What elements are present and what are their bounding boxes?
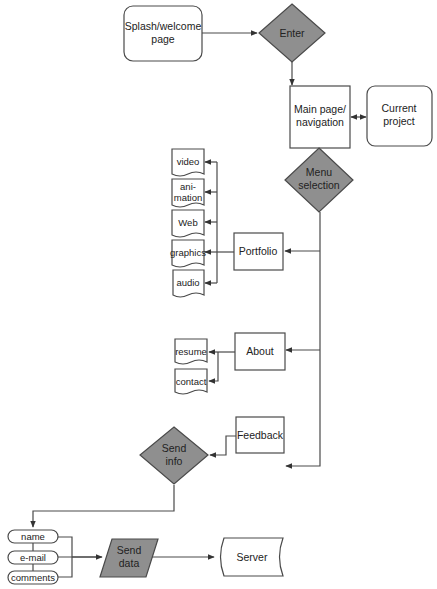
node-resume: resume [175, 339, 207, 364]
node-label: contact [176, 376, 207, 387]
node-label: info [166, 455, 183, 467]
node-label: Server [237, 551, 268, 563]
node-label: Send [117, 544, 142, 556]
node-video: video [172, 149, 204, 176]
node-splash-welcome: Splash/welcome page [124, 6, 202, 61]
node-name: name [8, 530, 58, 543]
node-label: Web [178, 217, 197, 228]
edge-menu-trunk [286, 212, 320, 466]
node-label: Portfolio [239, 245, 278, 257]
node-comments: comments [8, 571, 58, 584]
node-label: graphics [170, 247, 206, 258]
node-label: About [246, 345, 274, 357]
edge-sendinfo-name [33, 485, 174, 527]
node-label: page [151, 33, 175, 45]
node-label: e-mail [20, 552, 46, 563]
node-label: Send [162, 442, 187, 454]
edge-about-bus [209, 352, 218, 381]
node-animation: ani- mation [172, 179, 204, 207]
node-menu-selection: Menu selection [285, 148, 353, 212]
node-email: e-mail [8, 551, 58, 564]
node-about: About [235, 333, 285, 370]
node-feedback: Feedback [236, 417, 284, 453]
node-contact: contact [175, 369, 207, 394]
edge-feedback-sendinfo [210, 436, 236, 455]
node-label: audio [176, 277, 199, 288]
flowchart-canvas: Splash/welcome page Enter Main page/ nav… [0, 0, 437, 589]
node-label: mation [174, 192, 203, 203]
node-label: comments [11, 572, 55, 583]
node-label: Feedback [237, 429, 284, 441]
node-portfolio: Portfolio [234, 233, 283, 270]
node-web: Web [172, 210, 204, 237]
node-label: Menu [306, 166, 332, 178]
node-label: project [383, 115, 415, 127]
node-main-page: Main page/ navigation [290, 86, 350, 148]
node-current-project: Current project [367, 86, 432, 146]
node-label: ani- [180, 181, 196, 192]
node-label: selection [298, 179, 340, 191]
node-graphics: graphics [170, 240, 206, 267]
node-enter: Enter [259, 4, 325, 62]
node-server: Server [221, 538, 284, 576]
node-label: name [21, 531, 45, 542]
node-label: Enter [279, 27, 305, 39]
node-send-info: Send info [140, 427, 208, 484]
node-label: data [119, 557, 140, 569]
node-label: video [177, 156, 200, 167]
node-label: navigation [296, 116, 344, 128]
node-label: resume [175, 346, 207, 357]
node-label: Current [381, 102, 416, 114]
node-send-data: Send data [100, 539, 158, 577]
node-label: Main page/ [294, 103, 346, 115]
node-label: Splash/welcome [125, 20, 202, 32]
node-audio: audio [173, 270, 204, 297]
